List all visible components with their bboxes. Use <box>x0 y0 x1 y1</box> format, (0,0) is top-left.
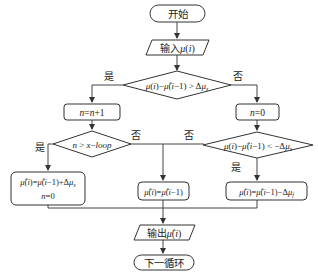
reset-n-node: n=0 <box>236 104 279 120</box>
increment-n-node: n=n+1 <box>64 104 120 120</box>
decision-loop-node: n > x−loop <box>53 131 131 157</box>
decision-fall-node: μ(i)−μ̂(i−1) < −Δμs <box>203 132 313 158</box>
decision-fall-label: μ(i)−μ̂(i−1) < −Δμs <box>223 141 293 152</box>
increment-n-label: n=n+1 <box>80 108 105 118</box>
update-up-node: μ̂(i)=μ̂(i−1)+Δμs n=0 <box>11 172 85 205</box>
flowchart-canvas: 开始 输入μ(i) μ(i)−μ̂(i−1) > Δμs 是 否 n=n+1 n… <box>0 0 318 273</box>
update-up-line2: n=0 <box>41 191 54 201</box>
start-label: 开始 <box>168 8 189 20</box>
d3-yes-label: 是 <box>231 162 241 173</box>
hold-label: μ̂(i)=μ̂(i−1) <box>143 187 183 197</box>
d3-no-label: 否 <box>184 130 194 141</box>
next-loop-label: 下一循环 <box>144 257 184 269</box>
d1-yes-label: 是 <box>104 71 114 82</box>
update-down-label: μ̂(i)=μ̂(i−1)−Δμf <box>238 187 295 198</box>
next-loop-node: 下一循环 <box>134 255 194 270</box>
decision-rise-node: μ(i)−μ̂(i−1) > Δμs <box>123 71 231 99</box>
d2-no-label: 否 <box>131 130 141 141</box>
output-node: 输出μ̂(i) <box>134 225 195 240</box>
hold-node: μ̂(i)=μ̂(i−1) <box>138 182 189 200</box>
update-down-node: μ̂(i)=μ̂(i−1)−Δμf <box>226 182 307 200</box>
input-node: 输入μ(i) <box>146 40 209 55</box>
update-up-line1: μ̂(i)=μ̂(i−1)+Δμs <box>19 177 76 188</box>
input-label: 输入μ(i) <box>160 42 195 55</box>
decision-rise-label: μ(i)−μ̂(i−1) > Δμs <box>145 81 209 92</box>
start-node: 开始 <box>150 5 205 22</box>
reset-n-label: n=0 <box>250 108 265 118</box>
decision-loop-label: n > x−loop <box>72 140 112 150</box>
output-label: 输出μ̂(i) <box>147 227 182 240</box>
d1-no-label: 否 <box>233 71 243 82</box>
d2-yes-label: 是 <box>35 142 45 153</box>
